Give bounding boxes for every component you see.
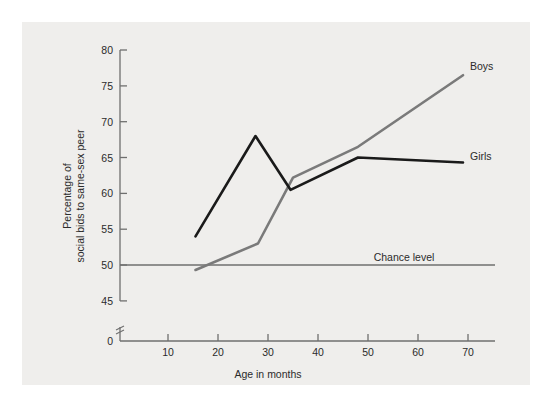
y-axis-title: Percentage of social bids to same-sex pe…	[61, 129, 86, 263]
y-tick-label-60: 60	[101, 187, 113, 199]
x-tick-label-30: 30	[262, 346, 274, 358]
y-axis-title-line2: social bids to same-sex peer	[74, 129, 86, 263]
x-tick-label-20: 20	[212, 346, 224, 358]
y-tick-label-75: 75	[101, 80, 113, 92]
line-chart: 80 75 70 65 60 55 50 45 0 10 20 30 40 50…	[0, 0, 554, 407]
x-tick-label-70: 70	[462, 346, 474, 358]
chance-level-label: Chance level	[374, 251, 435, 263]
x-tick-label-60: 60	[412, 346, 424, 358]
y-axis-title-line1: Percentage of	[61, 163, 73, 228]
figure-canvas: 80 75 70 65 60 55 50 45 0 10 20 30 40 50…	[0, 0, 554, 407]
x-tick-label-40: 40	[312, 346, 324, 358]
y-tick-label-50: 50	[101, 259, 113, 271]
series-label-boys: Boys	[470, 60, 493, 72]
y-tick-labels: 80 75 70 65 60 55 50 45 0	[101, 44, 113, 347]
y-tick-label-55: 55	[101, 223, 113, 235]
series-label-girls: Girls	[470, 150, 492, 162]
series-line-girls	[196, 136, 464, 236]
x-tick-labels: 10 20 30 40 50 60 70	[162, 346, 474, 358]
y-tick-label-0: 0	[107, 335, 113, 347]
x-tick-label-10: 10	[162, 346, 174, 358]
y-tick-label-65: 65	[101, 152, 113, 164]
y-tick-marks	[120, 50, 127, 301]
x-tick-marks	[168, 334, 468, 341]
x-axis-title: Age in months	[234, 368, 301, 380]
y-tick-label-45: 45	[101, 295, 113, 307]
y-tick-label-70: 70	[101, 116, 113, 128]
x-tick-label-50: 50	[362, 346, 374, 358]
y-tick-label-80: 80	[101, 44, 113, 56]
